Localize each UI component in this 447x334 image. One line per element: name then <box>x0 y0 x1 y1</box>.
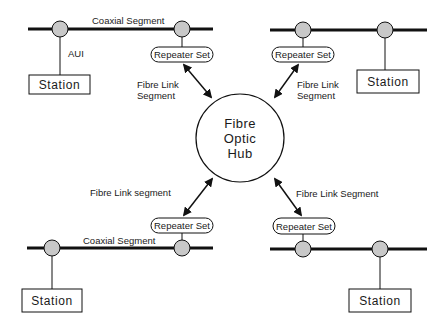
bottom-left-segment: Fibre Link segment Repeater Set Coaxial … <box>22 179 213 312</box>
fibre-link-label: Fibre Link <box>297 79 339 90</box>
fibre-link-label: Segment <box>297 90 335 101</box>
transceiver-tap <box>174 21 190 37</box>
transceiver-tap <box>372 241 388 257</box>
station-label: Station <box>39 78 81 92</box>
station-box[interactable]: Station <box>357 70 419 93</box>
repeater-set-label: Repeater Set <box>276 221 332 232</box>
repeater-set-label: Repeater Set <box>154 220 210 231</box>
fibre-optic-hub-diagram: Coaxial Segment AUI Station Repeater Set… <box>0 0 447 334</box>
hub-label-line: Optic <box>224 131 256 146</box>
hub-label-line: Hub <box>227 146 252 161</box>
repeater-set[interactable]: Repeater Set <box>151 47 213 62</box>
repeater-set-label: Repeater Set <box>275 49 331 60</box>
transceiver-tap <box>174 240 190 256</box>
top-right-segment: Repeater Set Station Fibre Link Segment <box>270 22 427 101</box>
transceiver-tap <box>52 21 68 37</box>
aui-label: AUI <box>68 48 84 59</box>
transceiver-tap <box>44 240 60 256</box>
station-box[interactable]: Station <box>22 289 82 312</box>
station-label: Station <box>367 75 409 89</box>
station-label: Station <box>31 294 73 308</box>
station-box[interactable]: Station <box>29 75 90 94</box>
repeater-set[interactable]: Repeater Set <box>151 218 213 233</box>
hub-label-line: Fibre <box>224 116 256 131</box>
fibre-link-arrow <box>275 65 298 97</box>
fibre-link-arrow <box>184 65 211 97</box>
repeater-set[interactable]: Repeater Set <box>273 218 335 234</box>
fibre-link-label: Fibre Link Segment <box>296 188 379 199</box>
fibre-link-arrow <box>184 179 212 215</box>
transceiver-tap <box>295 241 311 257</box>
station-label: Station <box>359 294 401 308</box>
fibre-optic-hub[interactable]: Fibre Optic Hub <box>196 94 284 182</box>
station-box[interactable]: Station <box>349 289 411 312</box>
bottom-right-segment: Fibre Link Segment Repeater Set Station <box>270 179 427 312</box>
fibre-link-label: Fibre Link segment <box>90 187 171 198</box>
fibre-link-label: Segment <box>137 90 175 101</box>
repeater-set[interactable]: Repeater Set <box>272 47 334 62</box>
fibre-link-label: Fibre Link <box>137 79 179 90</box>
coaxial-segment-label: Coaxial Segment <box>92 15 165 26</box>
repeater-set-label: Repeater Set <box>154 49 210 60</box>
coaxial-segment-label: Coaxial Segment <box>83 235 156 246</box>
top-left-segment: Coaxial Segment AUI Station Repeater Set… <box>28 15 213 101</box>
transceiver-tap <box>377 22 393 38</box>
transceiver-tap <box>295 22 311 38</box>
